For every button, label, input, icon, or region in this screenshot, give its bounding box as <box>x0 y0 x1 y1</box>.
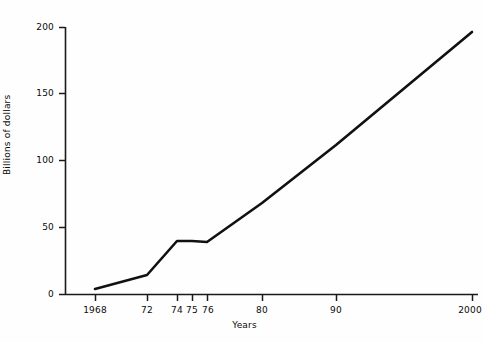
y-tick-label-200: 200 <box>26 22 54 32</box>
line-chart-plot <box>0 0 485 342</box>
x-tick-label-90: 90 <box>330 305 342 315</box>
y-tick-label-0: 0 <box>26 289 54 299</box>
data-series-line <box>95 32 472 289</box>
x-tick-label-76: 76 <box>202 305 214 315</box>
x-axis-title-text: Years <box>228 320 257 330</box>
x-tick-label-1968: 1968 <box>83 305 107 315</box>
y-tick-label-100: 100 <box>26 155 54 165</box>
x-tick-label-75: 75 <box>186 305 198 315</box>
chart-figure: 200 150 100 50 0 1968 72 74 75 76 80 90 … <box>0 0 485 342</box>
x-tick-label-74: 74 <box>171 305 183 315</box>
y-axis-title: Billions of dollars <box>2 95 12 175</box>
x-axis-title: Years <box>0 320 485 330</box>
x-tick-label-80: 80 <box>256 305 268 315</box>
x-tick-label-72: 72 <box>141 305 153 315</box>
x-tick-label-2000: 2000 <box>458 305 482 315</box>
y-tick-label-150: 150 <box>26 88 54 98</box>
y-tick-label-50: 50 <box>26 222 54 232</box>
y-axis-tick-marks <box>59 28 65 295</box>
